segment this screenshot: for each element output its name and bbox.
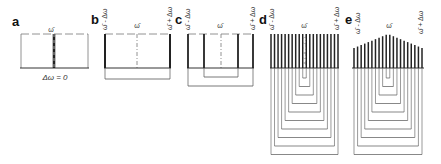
panel-letter-e: e <box>345 12 352 27</box>
upper-frequency-label: ω̄ + Δω <box>417 10 424 34</box>
upper-frequency-label: ω̄ + Δω <box>333 6 340 30</box>
lower-frequency-label: ω̄ - Δω <box>101 8 108 30</box>
panel-b: b ω̄ - Δω ω̄ ω̄ + Δω <box>91 6 173 79</box>
center-frequency-label: ω̄ <box>386 22 392 29</box>
upper-frequency-label: ω̄ + Δω <box>249 6 256 30</box>
lower-frequency-label: ω̄ - Δω <box>184 8 191 30</box>
panel-letter-b: b <box>91 12 99 27</box>
delta-omega-zero-label: Δω = 0 <box>41 73 68 82</box>
panel-letter-c: c <box>175 12 182 27</box>
panel-letter-a: a <box>12 14 20 29</box>
panel-d: d ω̄ - Δω ω̄ ω̄ + Δω <box>259 6 340 154</box>
center-frequency-label: ω̄ <box>48 26 54 33</box>
panel-e: e ω̄ - Δω ω̄ ω̄ + Δω <box>345 10 424 154</box>
lower-frequency-label: ω̄ - Δω <box>268 8 275 30</box>
spectrum-diagram: a ω̄ Δω = 0 b ω̄ - Δω ω̄ ω̄ + Δω c ω̄ - … <box>0 0 441 164</box>
panel-a: a ω̄ Δω = 0 <box>12 14 89 82</box>
center-frequency-label: ω̄ <box>301 22 307 29</box>
panel-letter-d: d <box>259 12 267 27</box>
upper-frequency-label: ω̄ + Δω <box>166 6 173 30</box>
center-frequency-label: ω̄ <box>134 22 140 29</box>
lower-frequency-label: ω̄ - Δω <box>354 12 361 34</box>
center-frequency-label: ω̄ <box>217 22 223 29</box>
panel-c: c ω̄ - Δω ω̄ ω̄ + Δω <box>175 6 256 86</box>
